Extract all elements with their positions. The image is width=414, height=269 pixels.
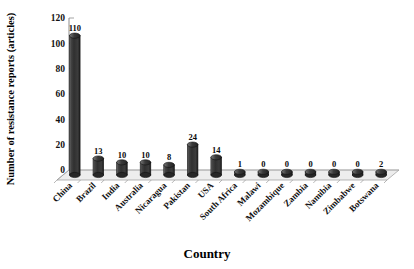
bar-value-label: 14 bbox=[212, 145, 221, 155]
bar-value-label: 10 bbox=[118, 150, 127, 160]
y-tick-label: 0 bbox=[60, 165, 65, 175]
bar bbox=[234, 169, 245, 177]
y-tick-label: 20 bbox=[56, 140, 66, 150]
bar-value-label: 110 bbox=[69, 23, 81, 33]
bar-value-label: 0 bbox=[308, 159, 312, 169]
bar-value-label: 1 bbox=[238, 159, 242, 169]
y-tick-label: 120 bbox=[51, 13, 66, 23]
bar-value-label: 0 bbox=[332, 159, 336, 169]
bar bbox=[164, 162, 175, 177]
bar bbox=[258, 169, 269, 177]
y-tick-label: 60 bbox=[56, 89, 66, 99]
bar-value-label: 10 bbox=[141, 150, 150, 160]
bar bbox=[211, 155, 222, 178]
y-tick-label: 40 bbox=[56, 115, 66, 125]
bar-value-label: 13 bbox=[94, 146, 103, 156]
bar-value-label: 0 bbox=[261, 159, 265, 169]
bar-value-label: 24 bbox=[188, 132, 197, 142]
bar-value-label: 0 bbox=[285, 159, 289, 169]
chart-floor bbox=[57, 170, 399, 180]
bar bbox=[305, 169, 316, 177]
bar bbox=[376, 169, 387, 177]
bar-chart: 020406080100120 110131010824141000002 Ch… bbox=[0, 0, 414, 269]
y-tick-label: 80 bbox=[56, 64, 66, 74]
bar bbox=[282, 169, 293, 177]
bar bbox=[117, 160, 128, 178]
y-tick-label: 100 bbox=[51, 39, 66, 49]
y-axis-title: Number of resistance reports (articles) bbox=[5, 12, 17, 185]
bar bbox=[69, 33, 80, 178]
chart-canvas: 020406080100120 110131010824141000002 Ch… bbox=[0, 0, 414, 269]
bar bbox=[329, 169, 340, 177]
x-axis-title: Country bbox=[184, 246, 231, 261]
bar-value-label: 2 bbox=[379, 159, 383, 169]
bar bbox=[187, 142, 198, 178]
bar-value-label: 8 bbox=[167, 152, 171, 162]
bar bbox=[93, 156, 104, 178]
bar bbox=[140, 160, 151, 178]
bar bbox=[352, 169, 363, 177]
bar-value-label: 0 bbox=[356, 159, 360, 169]
